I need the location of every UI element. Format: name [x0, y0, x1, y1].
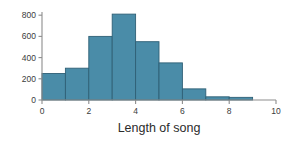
histogram-bar	[65, 68, 88, 100]
histogram-bar	[159, 63, 182, 100]
x-tick-label: 8	[227, 106, 232, 116]
x-tick-label: 0	[40, 106, 45, 116]
histogram-bar	[182, 89, 205, 100]
x-tick-label: 4	[133, 106, 138, 116]
histogram-bar	[136, 42, 159, 100]
histogram-chart: 0200400600800 0246810 Length of song	[0, 0, 286, 141]
y-tick-label: 0	[31, 95, 36, 105]
x-tick-label: 6	[180, 106, 185, 116]
x-tick-label: 10	[271, 106, 281, 116]
histogram-bar	[42, 73, 65, 100]
y-tick-label: 200	[22, 74, 36, 84]
x-axis-title: Length of song	[118, 121, 201, 135]
x-tick-label: 2	[86, 106, 91, 116]
y-tick-label: 800	[22, 10, 36, 20]
y-tick-label: 400	[22, 53, 36, 63]
histogram-bar	[89, 36, 112, 100]
y-tick-label: 600	[22, 31, 36, 41]
chart-canvas: 0200400600800 0246810 Length of song	[0, 0, 286, 141]
histogram-bar	[112, 14, 135, 100]
